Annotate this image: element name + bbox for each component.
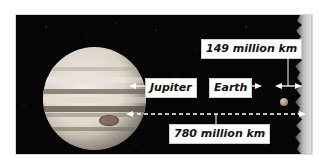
earth-label: Earth [209,78,252,98]
earth-distance-label: 149 million km [201,39,302,59]
jupiter-arrowhead [129,83,136,89]
jupiter-distance-label: 780 million km [169,124,270,144]
earth-arrowhead [255,83,262,89]
jupiter-label: Jupiter [145,78,197,98]
